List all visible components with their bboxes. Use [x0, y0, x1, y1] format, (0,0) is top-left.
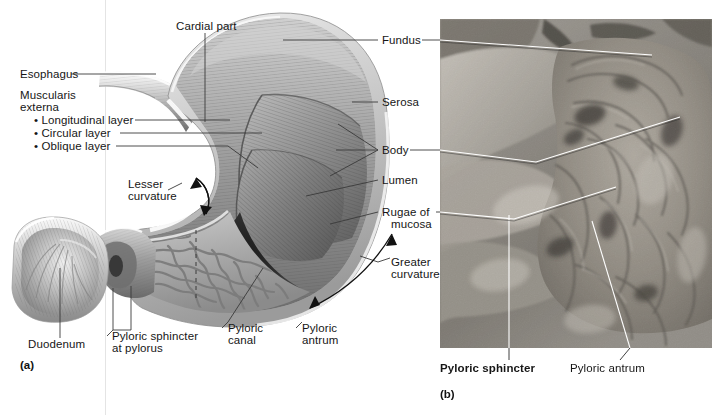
curvature-arrows	[196, 178, 392, 308]
panel-a-caption: (a)	[20, 359, 34, 371]
photo-leader-lines	[440, 19, 712, 348]
label-greater-curvature-line2: curvature	[391, 268, 440, 281]
label-muscularis-externa-line2: externa	[20, 101, 59, 114]
label-serosa: Serosa	[382, 96, 419, 109]
label-photo-pyloric-sphincter: Pyloric sphincter	[440, 362, 535, 375]
leader-lines-left	[60, 33, 302, 338]
label-lesser-curvature-line2: curvature	[128, 190, 177, 203]
label-rugae-of-mucosa-line1: Rugae of	[382, 206, 429, 219]
duodenum-structure	[10, 212, 110, 328]
label-muscularis-externa-line1: Muscularis	[20, 89, 76, 102]
leader-lines-right	[283, 40, 466, 262]
label-rugae-of-mucosa-line2: mucosa	[391, 218, 432, 231]
page-rule	[105, 0, 106, 415]
label-pyloric-canal-line1: Pyloric	[228, 322, 263, 335]
label-greater-curvature-line1: Greater	[391, 256, 431, 269]
label-circular-layer: • Circular layer	[34, 127, 111, 140]
arrow-heads	[190, 178, 397, 309]
rugae-of-mucosa	[148, 211, 310, 313]
label-esophagus: Esophagus	[20, 68, 78, 81]
stomach-anatomy-figure: Cardial part Esophagus Muscularis extern…	[0, 0, 722, 415]
label-lesser-curvature-line1: Lesser	[128, 178, 163, 191]
stomach-serosa	[129, 13, 389, 327]
stomach-lumen	[186, 212, 300, 302]
label-pyloric-sphincter-at-pylorus-line2: at pylorus	[112, 342, 163, 355]
label-pyloric-antrum-line2: antrum	[302, 334, 338, 347]
label-duodenum: Duodenum	[28, 338, 85, 351]
label-body: Body	[382, 144, 409, 157]
label-oblique-layer: • Oblique layer	[34, 140, 110, 153]
label-longitudinal-layer: • Longitudinal layer	[34, 114, 133, 127]
label-ticks	[168, 183, 390, 262]
label-pyloric-antrum-line1: Pyloric	[302, 322, 337, 335]
label-lumen: Lumen	[382, 174, 418, 187]
label-pyloric-sphincter-at-pylorus-line1: Pyloric sphincter	[112, 330, 198, 343]
label-pyloric-canal-line2: canal	[228, 334, 256, 347]
label-photo-pyloric-antrum: Pyloric antrum	[570, 362, 645, 375]
panel-b-caption: (b)	[440, 388, 455, 400]
pyloric-region	[100, 228, 156, 298]
label-cardial-part: Cardial part	[176, 20, 237, 33]
muscularis-externa-layers	[148, 18, 376, 312]
cadaver-photograph	[440, 19, 712, 348]
label-fundus: Fundus	[382, 34, 421, 47]
